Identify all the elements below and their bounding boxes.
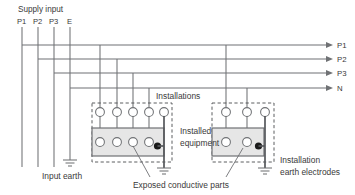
left-installation-earth-electrode-symbol xyxy=(157,168,171,174)
terminal-bottom xyxy=(222,138,231,147)
installation-earth-electrodes-label-line2: earth electrodes xyxy=(280,167,340,177)
terminal-top xyxy=(222,108,231,117)
terminal-top xyxy=(243,108,252,117)
terminal-bottom xyxy=(113,138,122,147)
right-installation-drops xyxy=(226,45,247,107)
exposed-conductive-parts-label: Exposed conductive parts xyxy=(133,180,229,190)
installed-equipment-label-line1: Installed xyxy=(180,126,212,136)
supply-terminal-label-e: E xyxy=(67,17,72,26)
right-installation-top-terminals xyxy=(222,108,270,117)
output-label-p1: P1 xyxy=(337,41,347,50)
terminal-top-earth xyxy=(160,108,169,117)
right-installation-earth-electrode-symbol xyxy=(258,168,272,174)
input-earth-electrode-symbol xyxy=(63,160,77,166)
installation-earth-electrodes-label-line1: Installation xyxy=(280,155,320,165)
arrowhead-n xyxy=(326,85,333,91)
supply-feeder-lines xyxy=(22,27,70,167)
output-arrowheads xyxy=(326,42,333,91)
terminal-top xyxy=(145,108,154,117)
terminal-top xyxy=(113,108,122,117)
installations-label: Installations xyxy=(156,91,200,101)
terminal-bottom xyxy=(129,138,138,147)
output-bus-lines xyxy=(22,45,326,88)
supply-terminal-label-p3: P3 xyxy=(49,17,58,26)
arrowhead-p1 xyxy=(326,42,333,48)
terminal-bottom xyxy=(243,138,252,147)
output-label-p3: P3 xyxy=(337,69,347,78)
wiring-diagram-canvas: Supply input P1 P2 P3 E P1 P2 P3 N Insta… xyxy=(0,0,355,195)
supply-terminal-label-p2: P2 xyxy=(33,17,42,26)
right-installed-equipment-body xyxy=(212,128,264,156)
terminal-bottom xyxy=(96,138,105,147)
left-installation-top-terminals xyxy=(96,108,169,117)
supply-input-heading: Supply input xyxy=(18,5,64,14)
terminal-top-earth xyxy=(261,108,270,117)
arrowhead-p3 xyxy=(326,70,333,76)
output-label-n: N xyxy=(337,84,343,93)
terminal-top xyxy=(96,108,105,117)
installed-equipment-label-line2: equipment xyxy=(180,138,220,148)
input-earth-label: Input earth xyxy=(42,171,82,181)
arrowhead-p2 xyxy=(326,56,333,62)
terminal-bottom xyxy=(145,138,154,147)
terminal-top xyxy=(129,108,138,117)
left-installation-drops xyxy=(100,45,149,107)
output-label-p2: P2 xyxy=(337,55,347,64)
wiring-diagram-svg: Supply input P1 P2 P3 E P1 P2 P3 N Insta… xyxy=(0,0,355,195)
supply-terminal-label-p1: P1 xyxy=(17,17,26,26)
